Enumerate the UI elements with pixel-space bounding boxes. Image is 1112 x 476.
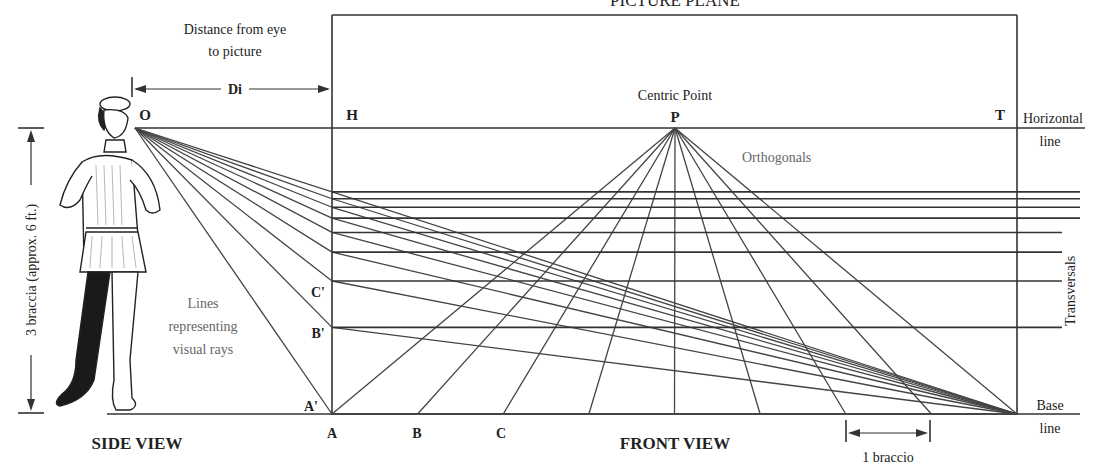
visual-ray-7	[135, 128, 332, 199]
visual-ray-3	[135, 128, 332, 252]
orthogonal-3	[589, 128, 675, 414]
visual-ray-1	[135, 128, 332, 327]
base-line-label-2: line	[1040, 421, 1061, 436]
eye-point-label: O	[139, 107, 151, 123]
orthogonal-1	[418, 128, 675, 414]
h-label: H	[346, 107, 358, 123]
orthogonal-0	[332, 128, 675, 414]
braccio-label: 1 braccio	[862, 450, 914, 465]
figure-light-leg	[112, 272, 138, 410]
orthogonal-8	[675, 128, 1017, 414]
height-caption: 3 braccia (approx. 6 ft.)	[24, 204, 40, 336]
visual-rays-label-2: representing	[168, 319, 237, 334]
horizontal-line-label-2: line	[1040, 134, 1061, 149]
b-prime-label: B'	[311, 326, 324, 341]
person-figure	[56, 97, 160, 410]
front-view-label: FRONT VIEW	[620, 434, 730, 453]
figure-hat	[100, 97, 130, 111]
base-line-label-1: Base	[1036, 398, 1063, 413]
distance-caption-line2: to picture	[208, 44, 261, 59]
a-prime-label: A'	[304, 399, 318, 414]
di-arrowhead-left	[134, 85, 146, 93]
orthogonal-6	[675, 128, 846, 414]
height-arrowhead-top	[27, 130, 35, 142]
figure-dark-leg	[56, 272, 110, 406]
visual-ray-0	[135, 128, 332, 414]
side-view-label: SIDE VIEW	[92, 434, 183, 453]
t-label: T	[995, 107, 1005, 123]
di-label: Di	[228, 82, 242, 97]
orthogonal-2	[503, 128, 675, 414]
horizontal-line-label-1: Horizontal	[1023, 111, 1083, 126]
c-label: C	[496, 426, 506, 441]
visual-rays-label-3: visual rays	[173, 342, 233, 357]
orthogonal-5	[675, 128, 760, 414]
di-arrowhead-right	[318, 85, 330, 93]
orthogonals-label: Orthogonals	[742, 150, 811, 165]
visual-ray-6	[135, 128, 332, 207]
a-label: A	[327, 426, 338, 441]
distance-caption-line1: Distance from eye	[184, 22, 287, 37]
b-label: B	[412, 426, 421, 441]
perspective-diagram: PICTURE PLANE Distance from eye to pictu…	[0, 0, 1112, 476]
height-arrowhead-bottom	[27, 399, 35, 411]
orthogonal-7	[675, 128, 931, 414]
visual-ray-8	[135, 128, 332, 192]
centric-point-caption: Centric Point	[638, 88, 712, 103]
c-prime-label: C'	[311, 285, 325, 300]
figure-head	[104, 110, 128, 138]
figure-collar	[104, 140, 126, 152]
braccio-arrowhead-left	[848, 429, 860, 437]
transversals-label: Transversals	[1063, 256, 1078, 326]
braccio-arrowhead-right	[916, 429, 928, 437]
visual-rays-label-1: Lines	[187, 296, 218, 311]
picture-plane-title: PICTURE PLANE	[610, 0, 740, 10]
visual-ray-4	[135, 128, 332, 232]
p-label: P	[670, 109, 679, 125]
